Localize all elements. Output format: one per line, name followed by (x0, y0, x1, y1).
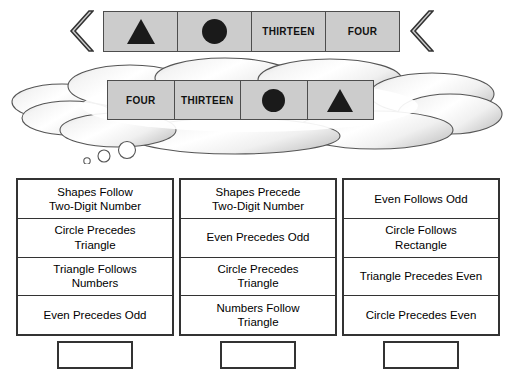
rule-cell[interactable]: Circle FollowsRectangle (344, 219, 498, 258)
rule-column-3: Even Follows Odd Circle FollowsRectangle… (342, 178, 500, 336)
triangle-icon (127, 19, 155, 44)
sequence-cell-triangle[interactable] (104, 12, 178, 51)
sequence-cell-label: FOUR (348, 26, 378, 37)
sequence-cell-thirteen[interactable]: THIRTEEN (252, 12, 326, 51)
rule-cell[interactable]: Even Follows Odd (344, 180, 498, 219)
answer-box-1[interactable] (57, 341, 133, 369)
thought-cell-thirteen[interactable]: THIRTEEN (175, 81, 242, 119)
rule-cell[interactable]: Shapes PrecedeTwo-Digit Number (181, 180, 335, 219)
rule-cell[interactable]: Even Precedes Odd (181, 219, 335, 258)
answer-box-3[interactable] (383, 341, 459, 369)
rule-cell[interactable]: Even Precedes Odd (18, 296, 172, 334)
sequence-cell-four[interactable]: FOUR (326, 12, 399, 51)
double-chevron-left-icon-left (68, 9, 94, 53)
thought-sequence-strip: FOUR THIRTEEN (107, 80, 374, 120)
thought-cell-label: FOUR (126, 95, 156, 106)
thought-cell-label: THIRTEEN (181, 95, 233, 106)
thought-bubble-dot-medium (98, 150, 110, 162)
thought-bubble-dot-large (119, 142, 136, 159)
thought-cell-circle[interactable] (241, 81, 308, 119)
rule-column-2: Shapes PrecedeTwo-Digit Number Even Prec… (179, 178, 337, 336)
rule-cell[interactable]: Numbers FollowTriangle (181, 296, 335, 334)
answer-row (16, 340, 500, 370)
answer-slot-1 (16, 340, 174, 370)
rule-cell[interactable]: Triangle FollowsNumbers (18, 258, 172, 297)
sequence-cell-circle[interactable] (178, 12, 252, 51)
sequence-cell-label: THIRTEEN (262, 26, 314, 37)
rule-cell[interactable]: Circle Precedes Even (344, 296, 498, 334)
thought-bubble-dot-small (84, 158, 90, 164)
answer-box-2[interactable] (220, 341, 296, 369)
rules-table: Shapes FollowTwo-Digit Number Circle Pre… (16, 178, 500, 336)
rule-cell[interactable]: Circle PrecedesTriangle (18, 219, 172, 258)
rule-cell[interactable]: Triangle Precedes Even (344, 258, 498, 297)
circle-icon (202, 19, 227, 44)
answer-slot-2 (179, 340, 337, 370)
rule-cell[interactable]: Circle PrecedesTriangle (181, 258, 335, 297)
given-sequence-strip: THIRTEEN FOUR (103, 11, 400, 52)
circle-icon (262, 89, 285, 112)
thought-cell-four[interactable]: FOUR (108, 81, 175, 119)
rule-column-1: Shapes FollowTwo-Digit Number Circle Pre… (16, 178, 174, 336)
thought-cell-triangle[interactable] (308, 81, 374, 119)
triangle-icon (327, 89, 353, 112)
answer-slot-3 (342, 340, 500, 370)
rule-cell[interactable]: Shapes FollowTwo-Digit Number (18, 180, 172, 219)
double-chevron-left-icon-right (408, 9, 434, 53)
